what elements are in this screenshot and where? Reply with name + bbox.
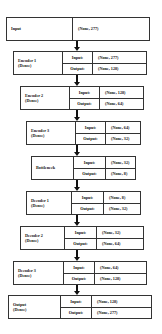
port-values: (None, 64) (None, 32) <box>106 122 140 144</box>
layer-node-decoder-1: Decoder 1 (Dense) Input: Output: (None, … <box>26 191 141 215</box>
port-values: (None, 277) (None, 128) <box>93 52 146 74</box>
layer-type: (Dense) <box>18 273 32 278</box>
output-shape: (None, 8) <box>106 169 135 180</box>
input-shape: (None, 277) <box>93 52 146 64</box>
output-shape: (None, 64) <box>97 239 143 250</box>
arrow-icon <box>76 215 78 223</box>
port-values: (None, 64) (None, 128) <box>95 262 146 284</box>
input-layer-node: Input (None, 277) <box>6 17 150 41</box>
output-shape: (None, 32) <box>106 134 140 145</box>
port-values: (None, 128) (None, 64) <box>100 87 143 109</box>
input-port-label: Input: <box>74 157 105 169</box>
port-values: (None, 8) (None, 32) <box>104 192 140 214</box>
layer-type: (Dense) <box>13 307 27 312</box>
input-shape: (None, 32) <box>106 157 135 169</box>
layer-label: Encoder 3 (Dense) <box>27 122 76 144</box>
input-shape: (None, 128) <box>92 296 151 308</box>
layer-label: Output (Dense) <box>9 296 61 318</box>
output-port-label: Output: <box>65 239 96 250</box>
layer-type: (Dense) <box>31 203 45 208</box>
layer-name: Input <box>11 26 21 31</box>
layer-label: Encoder 2 (Dense) <box>21 87 70 109</box>
port-values: (None, 32) (None, 8) <box>106 157 135 179</box>
input-shape: (None, 8) <box>104 192 140 204</box>
port-labels: Input: Output: <box>76 122 106 144</box>
layer-label: Decoder 2 (Dense) <box>21 227 65 249</box>
layer-label: Input <box>7 18 73 40</box>
layer-shape: (None, 277) <box>73 18 149 40</box>
port-labels: Input: Output: <box>72 192 104 214</box>
output-port-label: Output: <box>64 274 94 285</box>
input-shape: (None, 64) <box>106 122 140 134</box>
arrow-icon <box>76 41 78 48</box>
layer-node-encoder-2: Encoder 2 (Dense) Input: Output: (None, … <box>20 86 144 110</box>
arrow-icon <box>76 180 78 188</box>
output-port-label: Output: <box>76 134 105 145</box>
port-labels: Input: Output: <box>63 52 93 74</box>
output-shape: (None, 64) <box>100 99 143 110</box>
port-values: (None, 128) (None, 277) <box>92 296 151 318</box>
layer-label: Decoder 3 (Dense) <box>14 262 64 284</box>
layer-node-encoder-1: Encoder 1 (Dense) Input: Output: (None, … <box>13 51 147 75</box>
input-port-label: Input: <box>61 296 91 308</box>
layer-node-output: Output (Dense) Input: Output: (None, 128… <box>8 295 152 319</box>
input-port-label: Input: <box>64 262 94 274</box>
input-shape: (None, 64) <box>95 262 146 274</box>
layer-type: (Dense) <box>25 238 39 243</box>
port-labels: Input: Output: <box>70 87 100 109</box>
layer-type: (Dense) <box>25 98 39 103</box>
output-shape: (None, 128) <box>93 64 146 75</box>
layer-label: Decoder 1 (Dense) <box>27 192 72 214</box>
port-values: (None, 32) (None, 64) <box>97 227 143 249</box>
layer-name: Bottleneck <box>36 165 55 170</box>
output-port-label: Output: <box>72 204 103 215</box>
layer-node-decoder-2: Decoder 2 (Dense) Input: Output: (None, … <box>20 226 144 250</box>
layer-node-decoder-3: Decoder 3 (Dense) Input: Output: (None, … <box>13 261 147 285</box>
arrow-icon <box>76 250 78 258</box>
input-port-label: Input: <box>63 52 92 64</box>
layer-node-encoder-3: Encoder 3 (Dense) Input: Output: (None, … <box>26 121 141 145</box>
input-port-label: Input: <box>76 122 105 134</box>
input-port-label: Input: <box>72 192 103 204</box>
port-labels: Input: Output: <box>64 262 95 284</box>
arrow-icon <box>76 285 78 292</box>
port-labels: Input: Output: <box>74 157 106 179</box>
input-shape: (None, 128) <box>100 87 143 99</box>
layer-label: Encoder 1 (Dense) <box>14 52 63 74</box>
output-port-label: Output: <box>63 64 92 75</box>
output-port-label: Output: <box>61 308 91 319</box>
input-port-label: Input: <box>70 87 99 99</box>
layer-label: Bottleneck <box>32 157 74 179</box>
port-labels: Input: Output: <box>65 227 97 249</box>
layer-type: (Dense) <box>31 133 45 138</box>
output-shape: (None, 277) <box>92 308 151 319</box>
input-shape: (None, 32) <box>97 227 143 239</box>
output-shape: (None, 32) <box>104 204 140 215</box>
input-port-label: Input: <box>65 227 96 239</box>
port-labels: Input: Output: <box>61 296 92 318</box>
layer-type: (Dense) <box>18 63 32 68</box>
layer-node-bottleneck: Bottleneck Input: Output: (None, 32) (No… <box>31 156 136 180</box>
output-port-label: Output: <box>74 169 105 180</box>
arrow-icon <box>76 145 78 153</box>
arrow-icon <box>76 75 78 83</box>
arrow-icon <box>76 110 78 118</box>
output-port-label: Output: <box>70 99 99 110</box>
output-shape: (None, 128) <box>95 274 146 285</box>
